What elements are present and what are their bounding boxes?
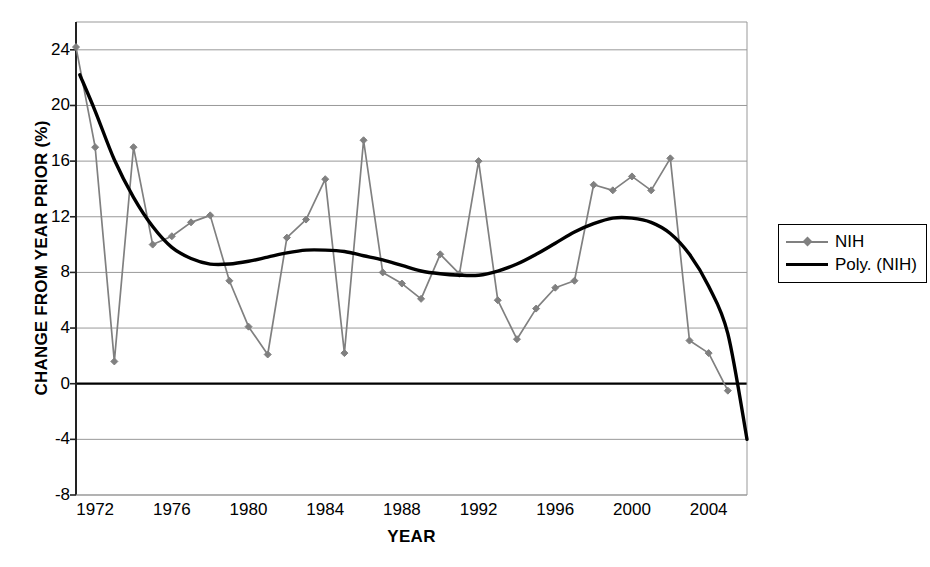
legend-label-nih: NIH bbox=[835, 232, 864, 252]
x-tick-label: 1976 bbox=[137, 500, 207, 520]
data-point-marker bbox=[149, 241, 156, 248]
data-point-marker bbox=[379, 269, 386, 276]
data-point-marker bbox=[475, 158, 482, 165]
x-tick-label: 1980 bbox=[214, 500, 284, 520]
data-point-marker bbox=[207, 212, 214, 219]
gridlines bbox=[76, 50, 747, 495]
data-point-marker bbox=[494, 297, 501, 304]
data-point-marker bbox=[571, 277, 578, 284]
data-point-marker bbox=[322, 176, 329, 183]
data-point-marker bbox=[724, 387, 731, 394]
x-tick-label: 1988 bbox=[367, 500, 437, 520]
plot-frame bbox=[76, 22, 747, 495]
data-point-marker bbox=[92, 144, 99, 151]
legend-item-nih[interactable]: NIH bbox=[786, 230, 917, 253]
chart-container: CHANGE FROM YEAR PRIOR (%) -8-4048121620… bbox=[0, 0, 930, 567]
data-point-marker bbox=[226, 277, 233, 284]
x-tick-label: 1992 bbox=[444, 500, 514, 520]
legend-key-poly-icon bbox=[786, 258, 828, 272]
legend-item-poly-nih[interactable]: Poly. (NIH) bbox=[786, 253, 917, 276]
x-tick-label: 1972 bbox=[60, 500, 130, 520]
x-tick-label: 2004 bbox=[674, 500, 744, 520]
x-axis-title: YEAR bbox=[76, 527, 747, 547]
x-tick-label: 1996 bbox=[520, 500, 590, 520]
chart-plot-area bbox=[0, 0, 930, 567]
data-point-marker bbox=[130, 144, 137, 151]
data-point-marker bbox=[341, 350, 348, 357]
legend-key-nih-icon bbox=[786, 235, 828, 249]
legend-label-poly-nih: Poly. (NIH) bbox=[835, 255, 917, 275]
x-tick-label: 1984 bbox=[290, 500, 360, 520]
data-point-marker bbox=[590, 181, 597, 188]
data-point-marker bbox=[111, 358, 118, 365]
data-point-marker bbox=[360, 137, 367, 144]
x-tick-label: 2000 bbox=[597, 500, 667, 520]
chart-legend: NIH Poly. (NIH) bbox=[778, 224, 927, 283]
